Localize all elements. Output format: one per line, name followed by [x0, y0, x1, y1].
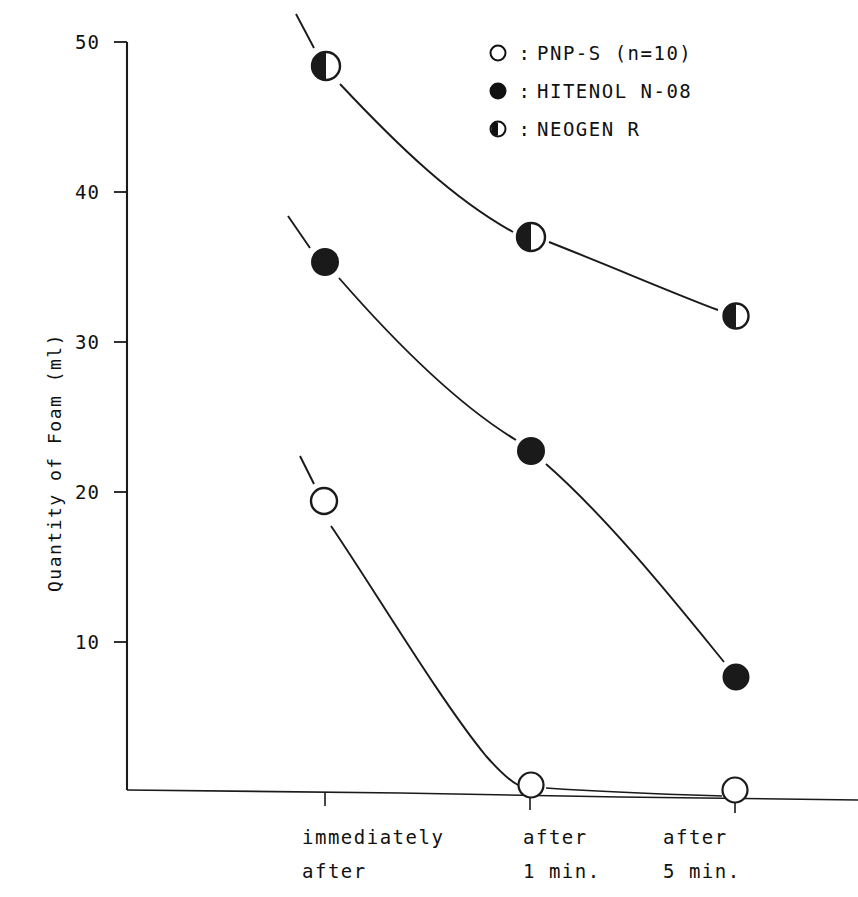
x-tick-label-after-5-min-line1: after [663, 826, 728, 848]
datapoint-pnp-s-after-5-min [723, 778, 748, 803]
series-pnp-s-lead-stub [300, 456, 314, 484]
x-tick-label-immediately-after-line1: immediately [302, 826, 444, 848]
foam-quantity-chart: 50 40 30 20 10 Quantity of Foam (ml) imm… [0, 0, 858, 897]
filled-circle-icon [487, 80, 509, 102]
x-tick-label-after-5-min: after 5 min. [663, 820, 741, 888]
legend-colon-neogen-r: : [513, 118, 537, 140]
series-pnp-s-segment-2 [546, 788, 722, 796]
y-axis-title: Quantity of Foam (ml) [44, 313, 65, 613]
x-tick-label-after-1-min-line1: after [523, 826, 588, 848]
datapoint-neogen-r-after-5-min [723, 304, 748, 329]
legend-label-neogen-r: NEOGEN R [537, 118, 641, 140]
half-filled-circle-icon [487, 118, 509, 140]
series-neogen-r-lead-stub [296, 14, 314, 48]
series-hitenol-n08-lead-stub [288, 216, 310, 248]
datapoint-neogen-r-immediately-after [312, 52, 340, 80]
legend-label-hitenol-n08: HITENOL N-08 [537, 80, 692, 102]
x-tick-label-after-1-min-line2: 1 min. [523, 854, 601, 888]
x-tick-label-immediately-after-line2: after [302, 854, 444, 888]
legend-item-pnp-s: : PNP-S (n=10) [487, 34, 827, 72]
legend-colon-pnp-s: : [513, 42, 537, 64]
x-tick-label-after-5-min-line2: 5 min. [663, 854, 741, 888]
y-tick-label-10: 10 [40, 631, 100, 653]
datapoint-neogen-r-after-1-min [517, 223, 545, 251]
datapoint-hitenol-n08-immediately-after [312, 249, 338, 275]
legend-item-hitenol-n08: : HITENOL N-08 [487, 72, 827, 110]
series-pnp-s-segment-1 [331, 526, 518, 785]
y-tick-label-50: 50 [40, 31, 100, 53]
series-neogen-r-segment-2 [549, 242, 718, 310]
datapoint-pnp-s-immediately-after [311, 488, 337, 514]
x-tick-label-after-1-min: after 1 min. [523, 820, 601, 888]
series-hitenol-n08-segment-1 [339, 278, 516, 440]
legend-label-pnp-s: PNP-S (n=10) [537, 42, 692, 64]
legend-colon-hitenol-n08: : [513, 80, 537, 102]
datapoint-hitenol-n08-after-1-min [518, 438, 544, 464]
datapoint-hitenol-n08-after-5-min [724, 665, 749, 690]
open-circle-icon [487, 42, 509, 64]
datapoint-pnp-s-after-1-min [519, 773, 544, 798]
legend-item-neogen-r: : NEOGEN R [487, 110, 827, 148]
series-hitenol-n08-segment-2 [546, 464, 724, 662]
y-tick-label-40: 40 [40, 181, 100, 203]
x-tick-label-immediately-after: immediately after [302, 820, 444, 888]
legend: : PNP-S (n=10) : HITENOL N-08 : NEOGEN R [487, 34, 827, 148]
